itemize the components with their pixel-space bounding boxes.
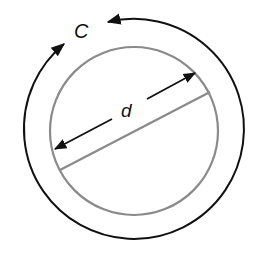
diameter-label: d — [121, 100, 133, 121]
diameter-arrow-right — [147, 73, 195, 99]
circumference-label: C — [74, 20, 89, 42]
circumference-arc — [24, 19, 244, 239]
diameter-arrow-left — [55, 119, 112, 149]
circle-diagram: C d — [0, 0, 259, 268]
diameter-line — [60, 92, 210, 170]
